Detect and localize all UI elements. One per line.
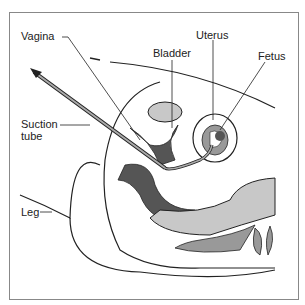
label-uterus: Uterus (196, 29, 228, 41)
label-suction-tube: Suction tube (21, 118, 58, 142)
label-bladder: Bladder (153, 47, 191, 59)
anatomy-illustration (0, 0, 305, 305)
label-vagina: Vagina (21, 30, 54, 42)
label-fetus: Fetus (258, 50, 286, 62)
label-leg: Leg (21, 206, 39, 218)
